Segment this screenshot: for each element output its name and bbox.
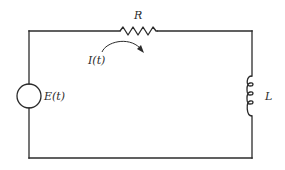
rl-circuit-diagram: R I(t) E(t) L: [0, 0, 285, 170]
resistor-label: R: [133, 9, 142, 22]
inductor-symbol: [247, 76, 253, 116]
resistor-symbol: [120, 27, 158, 35]
source-label: E(t): [43, 90, 65, 103]
current-arrow-icon: [102, 41, 144, 53]
current-label: I(t): [87, 54, 105, 67]
voltage-source-symbol: [17, 84, 41, 108]
inductor-label: L: [264, 90, 272, 103]
